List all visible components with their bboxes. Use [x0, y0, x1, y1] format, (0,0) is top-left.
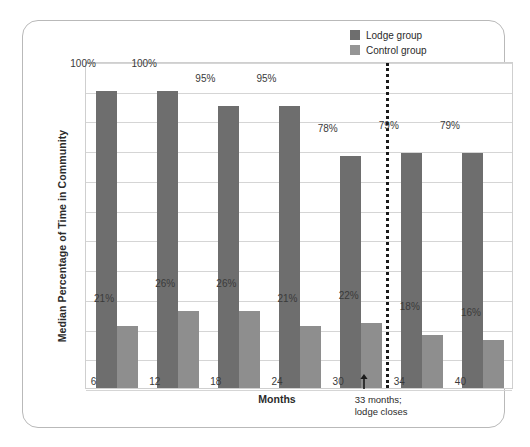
bar-value-label: 79%: [431, 120, 468, 131]
legend-item-control: Control group: [350, 44, 427, 56]
bar-value-label: 100%: [126, 58, 163, 69]
bar-control-group-40: [483, 340, 504, 388]
legend: Lodge group Control group: [343, 24, 435, 61]
x-tick-40: 40: [440, 376, 480, 387]
bar-value-label: 26%: [208, 278, 245, 289]
bar-lodge-group-40: [462, 153, 483, 388]
x-tick-34: 34: [379, 376, 419, 387]
bar-value-label: 16%: [452, 307, 489, 318]
bar-value-label: 21%: [269, 293, 306, 304]
bar-value-label: 22%: [330, 290, 367, 301]
bar-value-label: 95%: [187, 73, 224, 84]
bar-lodge-group-34: [401, 153, 422, 388]
event-caption: 33 months; lodge closes: [355, 394, 408, 418]
legend-swatch-lodge-icon: [350, 30, 360, 40]
bar-value-label: 95%: [248, 73, 285, 84]
bar-value-label: 26%: [147, 278, 184, 289]
x-tick-18: 18: [196, 376, 236, 387]
event-caption-line2: lodge closes: [355, 406, 408, 418]
gridline: [86, 390, 512, 391]
bar-value-label: 21%: [86, 293, 123, 304]
legend-swatch-control-icon: [350, 45, 360, 55]
plot-area: [85, 62, 513, 389]
x-tick-6: 6: [74, 376, 114, 387]
bars-layer: [86, 63, 512, 388]
bar-lodge-group-6: [96, 91, 117, 388]
x-tick-12: 12: [135, 376, 175, 387]
bar-lodge-group-18: [218, 106, 239, 388]
up-arrow-icon: [357, 373, 371, 389]
y-axis-title: Median Percentage of Time in Community: [53, 121, 71, 351]
bar-value-label: 18%: [391, 301, 428, 312]
legend-label-lodge: Lodge group: [366, 30, 422, 41]
x-tick-30: 30: [318, 376, 358, 387]
x-axis-title: Months: [237, 393, 317, 405]
bar-lodge-group-30: [340, 156, 361, 388]
legend-label-control: Control group: [366, 45, 427, 56]
bar-value-label: 79%: [370, 120, 407, 131]
event-dotted-line: [386, 63, 389, 388]
event-caption-line1: 33 months;: [355, 394, 408, 406]
bar-lodge-group-24: [279, 106, 300, 388]
figure-frame: Median Percentage of Time in Community 1…: [22, 20, 505, 428]
x-tick-24: 24: [257, 376, 297, 387]
bar-value-label: 100%: [65, 58, 102, 69]
legend-item-lodge: Lodge group: [350, 29, 427, 41]
bar-lodge-group-12: [157, 91, 178, 388]
bar-value-label: 78%: [309, 123, 346, 134]
